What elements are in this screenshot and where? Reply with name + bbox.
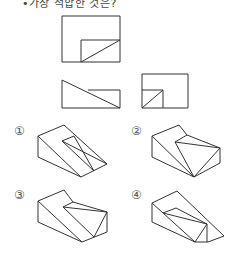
option-3-drawing[interactable]: [38, 190, 107, 242]
option-1-drawing[interactable]: [38, 125, 107, 177]
top-view-drawing: [62, 16, 120, 62]
option-4-label[interactable]: ④: [131, 188, 142, 202]
option-1-label[interactable]: ①: [14, 124, 25, 138]
side-view-drawing: [142, 74, 188, 108]
option-4-drawing[interactable]: [152, 191, 224, 242]
orthographic-views-and-options: [0, 0, 243, 261]
front-view-drawing: [62, 80, 120, 108]
option-3-label[interactable]: ③: [14, 188, 25, 202]
option-2-drawing[interactable]: [152, 125, 220, 177]
option-2-label[interactable]: ②: [131, 124, 142, 138]
